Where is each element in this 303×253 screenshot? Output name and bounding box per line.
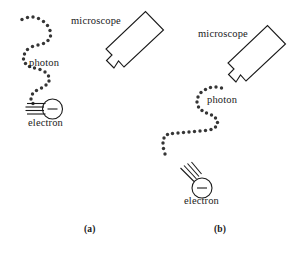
photon-label-a: photon xyxy=(29,58,59,69)
panel-b-group xyxy=(161,26,285,199)
microscope-label-a: microscope xyxy=(71,16,121,27)
microscope-label-b: microscope xyxy=(198,29,248,40)
panel-label-a: (a) xyxy=(84,225,96,235)
panel-label-b: (b) xyxy=(214,225,226,235)
photon-label-b: photon xyxy=(207,95,237,106)
electron-label-a: electron xyxy=(28,118,63,129)
figure-root: microscope photon electron (a) microscop… xyxy=(0,0,303,253)
electron-label-b: electron xyxy=(184,196,219,207)
